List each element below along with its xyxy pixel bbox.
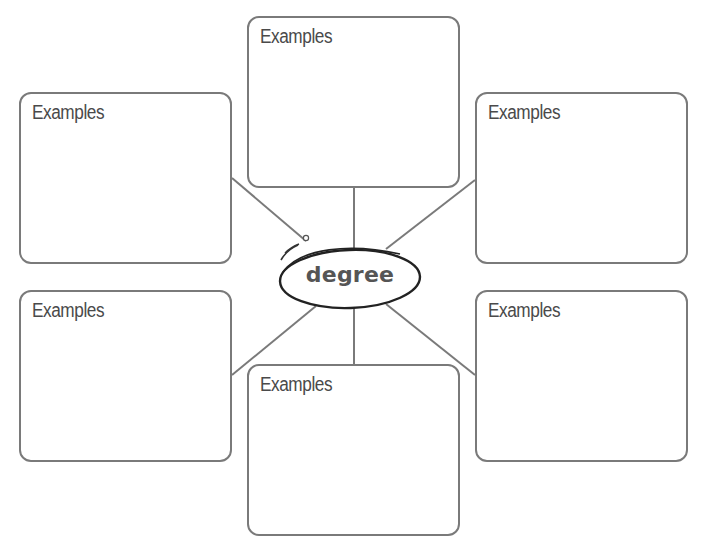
examples-box-top-right[interactable]: Examples (475, 92, 688, 264)
examples-box-bottom-left[interactable]: Examples (19, 290, 232, 462)
connector-top-right (386, 180, 475, 249)
examples-label: Examples (32, 101, 104, 124)
examples-box-top-center[interactable]: Examples (247, 16, 460, 188)
examples-label: Examples (488, 299, 560, 322)
word-web-diagram: Examples Examples Examples Examples Exam… (0, 0, 703, 542)
examples-label: Examples (32, 299, 104, 322)
center-word: degree (280, 262, 420, 287)
examples-label: Examples (488, 101, 560, 124)
examples-box-bottom-center[interactable]: Examples (247, 364, 460, 536)
examples-label: Examples (260, 25, 332, 48)
examples-label: Examples (260, 373, 332, 396)
examples-box-top-left[interactable]: Examples (19, 92, 232, 264)
examples-box-bottom-right[interactable]: Examples (475, 290, 688, 462)
